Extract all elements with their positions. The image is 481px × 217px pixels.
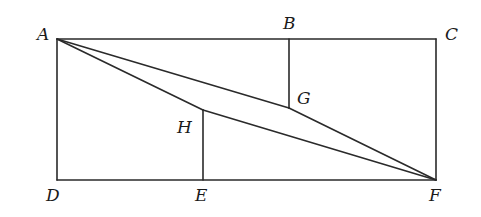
geometry-diagram: A B C D E F G H	[0, 0, 481, 217]
label-c: C	[445, 24, 458, 44]
segment-gf	[289, 108, 436, 180]
label-g: G	[297, 88, 311, 108]
label-h: H	[176, 117, 193, 137]
label-b: B	[282, 13, 296, 33]
label-f: F	[428, 185, 442, 205]
segment-ag	[57, 39, 289, 108]
label-a: A	[35, 24, 49, 44]
label-d: D	[45, 185, 60, 205]
segment-hf	[203, 110, 436, 180]
segment-ah	[57, 39, 203, 110]
label-e: E	[194, 185, 208, 205]
